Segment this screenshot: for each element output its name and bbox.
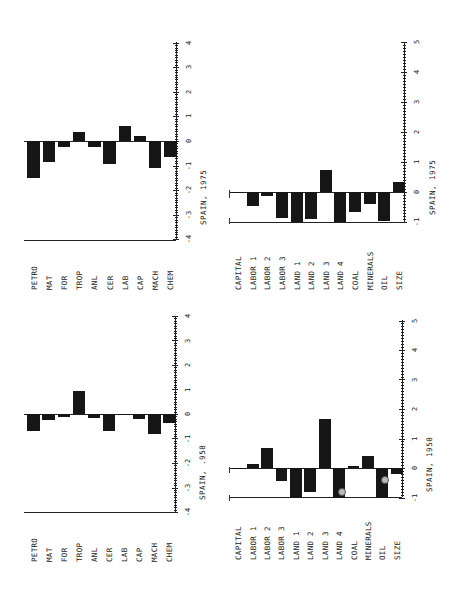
minor-tick	[401, 474, 404, 475]
minor-tick	[175, 48, 178, 49]
axis-tick-label: -1	[184, 429, 192, 449]
minor-tick	[403, 141, 406, 142]
axis-tick-label: 5	[413, 32, 421, 52]
minor-tick	[175, 99, 178, 100]
bar-petro	[27, 414, 39, 431]
category-label: LAND 1	[293, 261, 302, 290]
minor-tick	[403, 150, 406, 151]
minor-tick	[175, 171, 178, 172]
minor-tick	[401, 385, 404, 386]
minor-tick	[403, 204, 406, 205]
minor-tick	[174, 483, 177, 484]
minor-tick	[174, 331, 177, 332]
major-tick	[401, 132, 407, 133]
minor-tick	[403, 69, 406, 70]
axis-tick-label: 2	[184, 355, 192, 375]
minor-tick	[401, 436, 404, 437]
minor-tick	[403, 99, 406, 100]
minor-tick	[175, 200, 178, 201]
minor-tick	[401, 447, 404, 448]
minor-tick	[174, 409, 177, 410]
minor-tick	[403, 48, 406, 49]
minor-tick	[174, 490, 177, 491]
minor-tick	[401, 356, 404, 357]
major-tick	[172, 463, 178, 464]
minor-tick	[174, 436, 177, 437]
major-tick	[399, 498, 405, 499]
minor-tick	[175, 131, 178, 132]
minor-tick	[403, 57, 406, 58]
minor-tick	[401, 391, 404, 392]
minor-tick	[403, 165, 406, 166]
major-tick	[401, 42, 407, 43]
category-label: MACH	[151, 271, 160, 290]
minor-tick	[174, 375, 177, 376]
minor-tick	[174, 448, 177, 449]
minor-tick	[401, 489, 404, 490]
minor-tick	[403, 129, 406, 130]
minor-tick	[403, 123, 406, 124]
minor-tick	[174, 500, 177, 501]
minor-tick	[175, 77, 178, 78]
minor-tick	[403, 219, 406, 220]
minor-tick	[401, 329, 404, 330]
category-label: CHEM	[165, 543, 174, 562]
minor-tick	[403, 117, 406, 118]
minor-tick	[175, 126, 178, 127]
minor-tick	[175, 87, 178, 88]
minor-tick	[174, 397, 177, 398]
minor-tick	[403, 156, 406, 157]
axis-tick-label: 0	[411, 458, 419, 478]
major-tick	[399, 321, 405, 322]
axis-tick-label: -3	[185, 205, 193, 225]
minor-tick	[401, 415, 404, 416]
minor-tick	[175, 65, 178, 66]
scan-mark	[229, 495, 230, 501]
axis-tick-label: -1	[413, 212, 421, 232]
major-tick	[172, 365, 178, 366]
minor-tick	[175, 198, 178, 199]
minor-tick	[403, 45, 406, 46]
minor-tick	[174, 372, 177, 373]
category-label: COAL	[351, 271, 360, 290]
major-tick	[173, 67, 179, 68]
bar-petro	[27, 141, 39, 178]
category-label: LAND 3	[322, 261, 331, 290]
category-label: LAND 2	[307, 261, 316, 290]
minor-tick	[401, 353, 404, 354]
minor-tick	[174, 475, 177, 476]
minor-tick	[403, 147, 406, 148]
major-tick	[399, 439, 405, 440]
minor-tick	[403, 54, 406, 55]
axis-tick-label: 1	[411, 429, 419, 449]
category-label: SIZE	[393, 541, 402, 560]
bar-oil	[378, 192, 390, 221]
bar-minerals	[364, 192, 376, 204]
minor-tick	[401, 382, 404, 383]
major-tick	[401, 72, 407, 73]
minor-tick	[174, 382, 177, 383]
minor-tick	[174, 473, 177, 474]
major-tick	[173, 166, 179, 167]
minor-tick	[403, 51, 406, 52]
minor-tick	[401, 406, 404, 407]
minor-tick	[175, 84, 178, 85]
minor-tick	[175, 107, 178, 108]
minor-tick	[175, 62, 178, 63]
minor-tick	[403, 120, 406, 121]
minor-tick	[175, 210, 178, 211]
minor-tick	[174, 502, 177, 503]
minor-tick	[401, 347, 404, 348]
axis-tick-label: 0	[184, 404, 192, 424]
axis-tick-label: 3	[413, 92, 421, 112]
axis-tick-label: 4	[411, 340, 419, 360]
minor-tick	[175, 72, 178, 73]
minor-tick	[401, 359, 404, 360]
axis-tick-label: 2	[413, 122, 421, 142]
minor-tick	[174, 510, 177, 511]
minor-tick	[175, 180, 178, 181]
axis-tick-label: 3	[184, 331, 192, 351]
minor-tick	[403, 177, 406, 178]
minor-tick	[403, 213, 406, 214]
minor-tick	[403, 195, 406, 196]
